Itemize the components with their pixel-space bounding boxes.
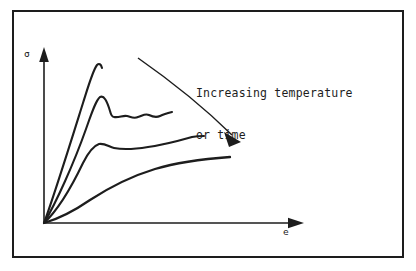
x-axis-label: e	[283, 226, 289, 237]
y-axis-label: σ	[24, 48, 30, 59]
annotation-text-line-2: or time	[196, 128, 353, 142]
y-axis-arrowhead	[39, 47, 49, 62]
annotation-text-line-1: Increasing temperature	[196, 86, 353, 100]
y-axis	[39, 47, 49, 223]
annotation-text: Increasing temperature or time	[196, 58, 353, 170]
x-axis-arrowhead	[288, 218, 304, 228]
figure-canvas: σ e Increasing temperature or time	[0, 0, 416, 271]
x-axis	[44, 218, 304, 228]
curve-2	[44, 97, 172, 223]
